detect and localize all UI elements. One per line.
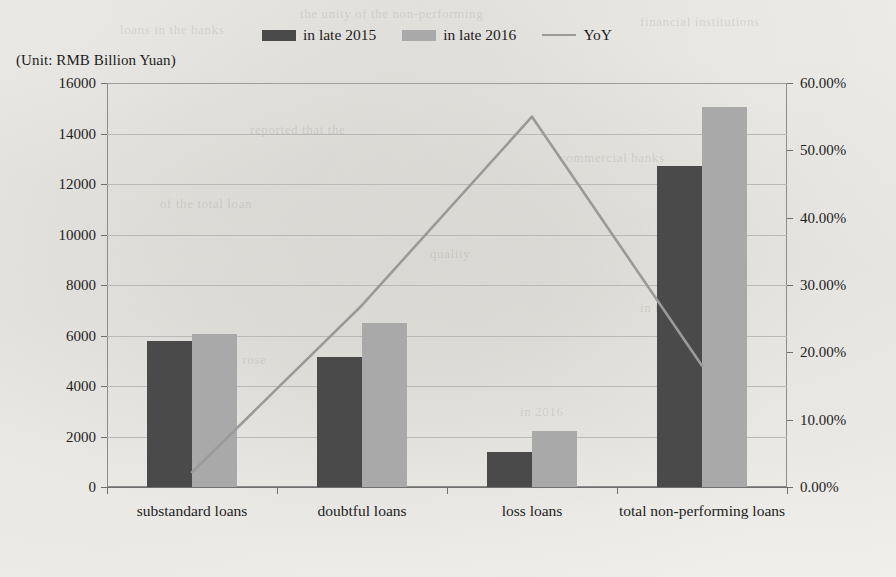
y-axis-left-tick-label: 12000 [59,176,97,193]
y-axis-left-tick-label: 2000 [66,428,96,445]
y-axis-left-tick-label: 10000 [59,226,97,243]
bar-2015 [657,166,702,487]
bar-2016 [192,334,237,487]
y-axis-right-tick-label: 60.00% [800,75,846,92]
y-axis-left-tick-label: 14000 [59,125,97,142]
legend-label-yoy: YoY [583,26,612,44]
y-axis-right-tick-mark [787,420,793,421]
y-axis-right-tick-mark [787,150,793,151]
x-axis-category-labels: substandard loansdoubtful loansloss loan… [107,500,787,562]
legend-item-in-late-2015[interactable]: in late 2015 [262,26,376,44]
bar-2015 [317,357,362,487]
plot-area: 0200040006000800010000120001400016000 0.… [107,83,787,487]
x-axis-tick-mark [787,487,788,494]
x-axis-label-2: loss loans [447,500,617,521]
y-axis-left-tick-label: 6000 [66,327,96,344]
legend-swatch-2015 [262,30,296,41]
x-axis-tick-mark [447,487,448,494]
x-axis-label-0: substandard loans [107,500,277,521]
y-axis-right-tick-mark [787,352,793,353]
x-axis-label-3: total non-performing loans [617,500,787,521]
bar-2015 [147,341,192,487]
y-axis-right-tick-label: 10.00% [800,411,846,428]
bar-2016 [532,431,577,487]
legend-swatch-2016 [402,30,436,41]
x-axis-label-1: doubtful loans [277,500,447,521]
y-axis-right-tick-mark [787,83,793,84]
combo-chart: (Unit: RMB Billion Yuan) in late 2015 in… [0,0,896,577]
legend-item-in-late-2016[interactable]: in late 2016 [402,26,516,44]
y-axis-right-tick-label: 50.00% [800,142,846,159]
legend-label-2016: in late 2016 [443,26,516,44]
y-axis-right-tick-label: 0.00% [800,479,839,496]
y-axis-left-tick-label: 4000 [66,378,96,395]
y-axis-unit-label: (Unit: RMB Billion Yuan) [16,52,176,69]
y-axis-right-tick-mark [787,285,793,286]
legend-swatch-yoy [542,34,576,36]
y-axis-left-tick-label: 0 [89,479,97,496]
x-axis-tick-mark [107,487,108,494]
y-axis-left-tick-label: 8000 [66,277,96,294]
y-axis-right-tick-label: 20.00% [800,344,846,361]
legend-item-yoy[interactable]: YoY [542,26,612,44]
legend-label-2015: in late 2015 [303,26,376,44]
bar-2016 [702,107,747,487]
x-axis-tick-mark [277,487,278,494]
chart-legend: in late 2015 in late 2016 YoY [262,26,612,44]
bar-2016 [362,323,407,487]
y-axis-right-tick-label: 30.00% [800,277,846,294]
y-axis-right-tick-label: 40.00% [800,209,846,226]
bar-series-layer [107,83,787,487]
bar-2015 [487,452,532,487]
y-axis-right-tick-mark [787,218,793,219]
y-axis-left-tick-label: 16000 [59,75,97,92]
x-axis-tick-mark [617,487,618,494]
